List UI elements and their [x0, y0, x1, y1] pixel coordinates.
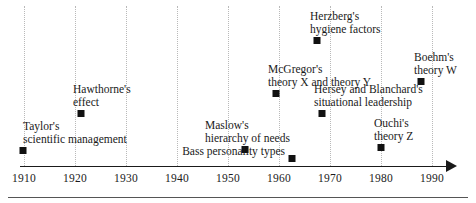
timeline-axis-arrow-icon — [446, 160, 457, 172]
event-marker-boehm[interactable] — [418, 78, 425, 85]
event-marker-mcgregor[interactable] — [273, 90, 280, 97]
event-label-ouchi: Ouchi'stheory Z — [374, 117, 413, 142]
axis-tick-label: 1950 — [216, 172, 240, 184]
event-label-hersey-blanchard: Hersey and Blanchard'ssituational leader… — [314, 83, 423, 108]
event-marker-bass[interactable] — [289, 155, 296, 162]
event-label-line: effect — [73, 96, 131, 109]
event-marker-hawthorne[interactable] — [78, 110, 85, 117]
axis-tick-label: 1940 — [165, 172, 189, 184]
event-label-line: Hawthorne's — [73, 83, 131, 96]
event-label-line: scientific management — [23, 133, 127, 146]
axis-tick-label: 1960 — [267, 172, 291, 184]
axis-tick-label: 1930 — [114, 172, 138, 184]
axis-tick-label: 1970 — [318, 172, 342, 184]
axis-tick-label: 1920 — [63, 172, 87, 184]
event-label-line: situational leadership — [314, 96, 423, 109]
timeline-plot-area: 191019201930194019501960197019801990 Tay… — [0, 0, 476, 203]
axis-tick-label: 1910 — [12, 172, 36, 184]
event-label-line: theory Z — [374, 130, 413, 143]
event-label-line: theory W — [414, 64, 457, 77]
event-label-taylor: Taylor'sscientific management — [23, 120, 127, 145]
event-label-line: hygiene factors — [310, 23, 381, 36]
gridline-1940 — [177, 6, 178, 166]
timeline-axis-line — [20, 166, 452, 167]
event-marker-taylor[interactable] — [20, 147, 27, 154]
event-label-line: Bass personality types — [182, 145, 285, 158]
event-marker-hersey-blanchard[interactable] — [319, 110, 326, 117]
event-label-line: Maslow's — [205, 119, 290, 132]
event-label-line: Hersey and Blanchard's — [314, 83, 423, 96]
event-label-maslow: Maslow'shierarchy of needs — [205, 119, 290, 144]
axis-tick-label: 1990 — [420, 172, 444, 184]
event-label-hawthorne: Hawthorne'seffect — [73, 83, 131, 108]
axis-tick-label: 1980 — [369, 172, 393, 184]
event-label-bass: Bass personality types — [182, 145, 285, 158]
event-label-herzberg: Herzberg'shygiene factors — [310, 10, 381, 35]
event-label-line: Ouchi's — [374, 117, 413, 130]
event-marker-herzberg[interactable] — [314, 37, 321, 44]
event-marker-ouchi[interactable] — [378, 144, 385, 151]
event-label-line: Taylor's — [23, 120, 127, 133]
event-label-line: Boehm's — [414, 51, 457, 64]
event-label-line: Herzberg's — [310, 10, 381, 23]
footer-divider — [8, 197, 468, 198]
event-label-line: McGregor's — [268, 63, 371, 76]
event-label-boehm: Boehm'stheory W — [414, 51, 457, 76]
timeline-figure: 191019201930194019501960197019801990 Tay… — [0, 0, 476, 203]
event-label-line: hierarchy of needs — [205, 132, 290, 145]
gridline-1990 — [432, 6, 433, 166]
